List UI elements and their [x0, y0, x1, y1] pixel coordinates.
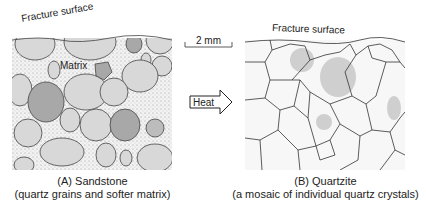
caption-a: (A) Sandstone (quartz grains and softer … — [0, 175, 185, 201]
quartzite-panel — [245, 40, 405, 170]
caption-b-title: (B) Quartzite — [225, 175, 426, 188]
heat-label: Heat — [193, 97, 214, 108]
fracture-label-b: Fracture surface — [272, 22, 346, 36]
caption-a-title: (A) Sandstone — [0, 175, 185, 188]
fracture-label-a: Fracture surface — [20, 0, 94, 24]
sandstone-panel — [8, 24, 174, 173]
caption-b-sub: (a mosaic of individual quartz crystals) — [225, 188, 426, 201]
scale-label: 2 mm — [196, 35, 221, 46]
caption-b: (B) Quartzite (a mosaic of individual qu… — [225, 175, 426, 201]
matrix-label: Matrix — [60, 60, 87, 71]
heat-arrow: Heat — [190, 90, 232, 114]
scale-bar: 2 mm — [185, 35, 232, 47]
sandstone-quartzite-diagram: Fracture surface Matrix 2 mm Heat — [0, 0, 426, 212]
caption-a-sub: (quartz grains and softer matrix) — [0, 188, 185, 201]
